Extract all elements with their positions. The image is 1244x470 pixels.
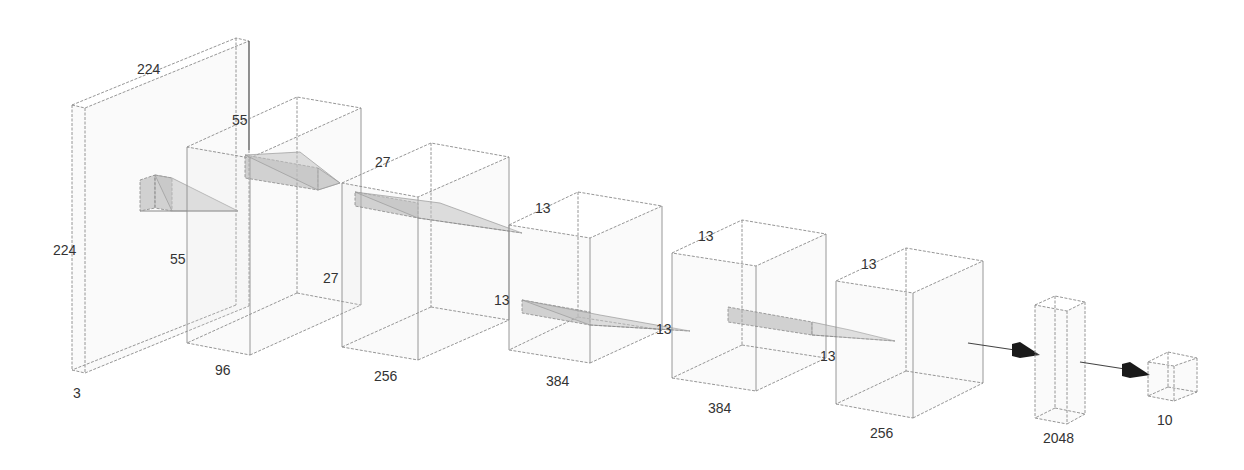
fc-depth-label: 2048: [1043, 431, 1074, 445]
conv5-depth-label: 256: [870, 426, 893, 440]
conv3-width-label: 13: [535, 201, 551, 215]
layer-conv2-box: [342, 143, 509, 360]
conv1-width-label: 55: [232, 113, 248, 127]
layer-fc-box: [1035, 296, 1085, 424]
layer-conv4-box: [672, 220, 826, 391]
conv4-width-label: 13: [698, 229, 714, 243]
conv3-height-label: 13: [494, 293, 510, 307]
conv2-height-label: 27: [323, 271, 339, 285]
conv1-height-label: 55: [170, 252, 186, 266]
conv4-depth-label: 384: [708, 401, 731, 415]
conv2-width-label: 27: [375, 155, 391, 169]
layer-conv3-box: [509, 192, 662, 363]
conv1-depth-label: 96: [215, 363, 231, 377]
output-depth-label: 10: [1157, 413, 1173, 427]
arrow-to-output-icon: [1080, 362, 1150, 378]
input-width-label: 224: [137, 62, 160, 76]
input-height-label: 224: [53, 243, 76, 257]
conv5-height-label: 13: [820, 349, 836, 363]
conv2-depth-label: 256: [374, 369, 397, 383]
layer-output-box: [1148, 352, 1197, 401]
diagram-canvas: [0, 0, 1244, 470]
cnn-diagram: 224 224 3 55 55 96 27 27 256 13 13 384 1…: [0, 0, 1244, 470]
input-depth-label: 3: [73, 386, 81, 400]
conv5-width-label: 13: [861, 257, 877, 271]
conv3-depth-label: 384: [546, 374, 569, 388]
conv4-height-label: 13: [656, 322, 672, 336]
layer-conv5-box: [836, 248, 983, 418]
